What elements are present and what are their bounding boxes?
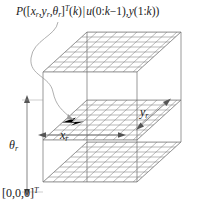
y-label: yr bbox=[140, 105, 148, 120]
x-label: xr bbox=[60, 128, 68, 143]
probability-formula: P([xr,yr,θr]T(k) | u(0:k−1),y(1:k)) bbox=[16, 4, 159, 19]
theta-label: θr bbox=[9, 138, 18, 153]
origin-label: [0,0,0]T bbox=[2, 186, 38, 201]
robot-pose-distribution-diagram bbox=[0, 0, 199, 210]
